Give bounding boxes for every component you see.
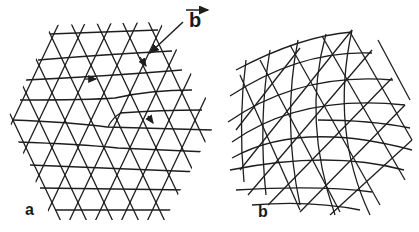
panel-b-label: b xyxy=(258,203,268,221)
panel-b-lattice xyxy=(228,30,412,215)
panel-a-label: a xyxy=(25,201,34,219)
burgers-vector-label: b xyxy=(189,9,201,32)
burgers-circuit-arrows xyxy=(85,22,183,123)
figure-canvas xyxy=(0,0,419,232)
